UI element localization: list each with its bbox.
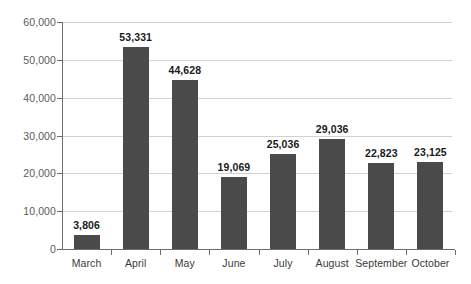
x-axis-tick (455, 250, 456, 255)
bar[interactable] (123, 47, 149, 249)
x-axis-tick (160, 250, 161, 255)
bar[interactable] (270, 154, 296, 249)
bar[interactable] (417, 162, 443, 249)
bar-value-label: 23,125 (414, 146, 447, 158)
y-axis-tick-label: 40,000 (23, 92, 56, 104)
bar[interactable] (319, 139, 345, 249)
y-axis-labels: 010,00020,00030,00040,00050,00060,000 (0, 0, 56, 284)
bar-value-label: 25,036 (267, 138, 300, 150)
y-axis-tick-label: 50,000 (23, 54, 56, 66)
bar-value-label: 29,036 (316, 123, 349, 135)
x-axis-category-label: May (175, 257, 195, 269)
bar-value-label: 44,628 (168, 64, 201, 76)
bar-value-label: 53,331 (119, 31, 152, 43)
x-axis-category-label: September (355, 257, 407, 269)
bar-value-label: 22,823 (365, 147, 398, 159)
x-axis-category-label: June (222, 257, 245, 269)
bar[interactable] (74, 235, 100, 249)
bar[interactable] (368, 163, 394, 249)
x-axis-tick (357, 250, 358, 255)
y-axis-tick-label: 10,000 (23, 205, 56, 217)
y-axis-tick-label: 20,000 (23, 167, 56, 179)
bars-layer (62, 22, 455, 249)
y-axis-tick-label: 60,000 (23, 16, 56, 28)
bar[interactable] (221, 177, 247, 249)
x-axis-category-label: March (72, 257, 102, 269)
x-axis-tick (308, 250, 309, 255)
bar-value-label: 19,069 (218, 161, 251, 173)
x-axis-tick (259, 250, 260, 255)
y-axis-tick-label: 30,000 (23, 130, 56, 142)
x-axis-category-label: April (125, 257, 147, 269)
x-axis-category-label: October (411, 257, 449, 269)
bar-chart: 010,00020,00030,00040,00050,00060,000 3,… (0, 0, 471, 284)
bar[interactable] (172, 80, 198, 249)
y-axis-tick-label: 0 (50, 243, 56, 255)
x-axis-category-label: August (316, 257, 349, 269)
x-axis-tick (111, 250, 112, 255)
x-axis-tick (406, 250, 407, 255)
x-axis-tick (209, 250, 210, 255)
bar-value-label: 3,806 (73, 219, 100, 231)
x-axis-category-label: July (274, 257, 293, 269)
